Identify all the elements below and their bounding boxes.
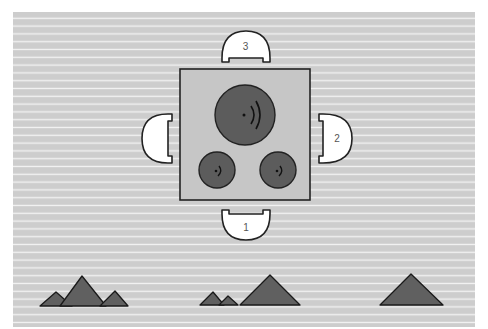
burner-center-dot <box>276 170 279 173</box>
burner-center-dot <box>243 114 246 117</box>
seat-number: 1 <box>243 222 249 233</box>
seat-2[interactable]: 2 <box>319 114 352 163</box>
seat-1[interactable]: 1 <box>222 210 270 240</box>
small-burner-left[interactable] <box>199 152 235 188</box>
burner-center-dot <box>215 170 218 173</box>
seat-number: 2 <box>334 133 340 144</box>
large-burner[interactable] <box>215 85 275 145</box>
small-burner-right[interactable] <box>260 152 296 188</box>
seat-number: 3 <box>243 41 249 52</box>
seat-left[interactable] <box>142 114 172 163</box>
diagram-canvas: 3 1 2 <box>0 0 488 329</box>
seat-3[interactable]: 3 <box>222 31 270 62</box>
